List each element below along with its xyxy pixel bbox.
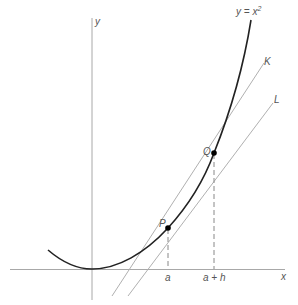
curve-label-exponent: 2 bbox=[256, 5, 261, 12]
curve-label-base: y = x bbox=[235, 6, 258, 17]
tangent-line-l bbox=[128, 103, 273, 296]
parabola-diagram: y x P Q K L a a + h y = x2 bbox=[0, 0, 298, 305]
point-q bbox=[211, 150, 217, 156]
point-p-label: P bbox=[159, 218, 166, 229]
tick-a-plus-h-label: a + h bbox=[203, 272, 226, 283]
point-p bbox=[165, 225, 171, 231]
line-l-label: L bbox=[274, 94, 280, 105]
tick-a-label: a bbox=[165, 272, 171, 283]
x-axis-label: x bbox=[280, 271, 287, 282]
parabola-curve bbox=[48, 20, 251, 269]
secant-line-k bbox=[112, 63, 264, 296]
curve-label: y = x2 bbox=[235, 5, 261, 17]
line-k-label: K bbox=[264, 56, 272, 67]
point-q-label: Q bbox=[203, 146, 211, 157]
y-axis-label: y bbox=[94, 16, 101, 27]
